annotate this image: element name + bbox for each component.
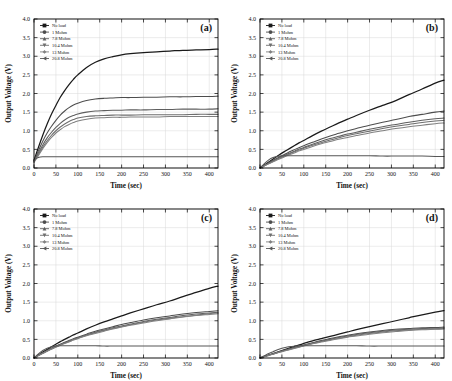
y-axis-title: Output Voltage (V): [231, 254, 239, 313]
x-tick-label: 300: [161, 361, 170, 367]
chart-panel-a: 0501001502002503003504000.00.51.01.52.02…: [0, 0, 226, 190]
legend-label-10-4-mohm: 10.4 Mohm: [278, 233, 299, 238]
x-tick-label: 0: [259, 171, 262, 177]
x-tick-label: 300: [161, 171, 170, 177]
y-tick-label: 3.0: [23, 243, 31, 249]
y-axis-title: Output Voltage (V): [5, 254, 13, 313]
legend-label-13-mohm: 13 Mohm: [278, 50, 296, 55]
x-tick-label: 350: [409, 361, 418, 367]
x-tick-label: 200: [343, 361, 352, 367]
x-tick-label: 350: [183, 361, 192, 367]
legend-label-1-mohm: 1 Mohm: [52, 220, 68, 225]
x-tick-label: 400: [205, 171, 214, 177]
plot-svg-c: 0501001502002503003504000.00.51.01.52.02…: [0, 190, 226, 380]
x-tick-label: 0: [33, 171, 36, 177]
y-tick-label: 2.0: [23, 281, 31, 287]
x-tick-label: 250: [365, 361, 374, 367]
y-tick-label: 0.0: [23, 355, 31, 361]
y-tick-label: 2.5: [23, 72, 31, 78]
y-tick-label: 3.5: [249, 225, 257, 231]
x-axis-title: Time (sec): [110, 372, 142, 380]
x-tick-label: 200: [117, 171, 126, 177]
y-tick-label: 4.0: [249, 16, 257, 22]
y-tick-label: 2.0: [249, 281, 257, 287]
x-tick-label: 300: [387, 171, 396, 177]
x-tick-label: 350: [409, 171, 418, 177]
y-tick-label: 1.5: [249, 109, 257, 115]
y-tick-label: 1.0: [249, 318, 257, 324]
y-tick-label: 3.0: [23, 53, 31, 59]
x-tick-label: 100: [73, 171, 82, 177]
y-tick-label: 1.5: [23, 299, 31, 305]
y-tick-label: 4.0: [23, 206, 31, 212]
legend-label-no-load: No load: [52, 23, 67, 28]
x-axis-title: Time (sec): [336, 182, 368, 190]
y-tick-label: 4.0: [23, 16, 31, 22]
panel-label: (c): [201, 212, 212, 224]
x-tick-label: 200: [343, 171, 352, 177]
panel-label: (a): [200, 22, 212, 34]
legend-label-1-mohm: 1 Mohm: [278, 220, 294, 225]
x-tick-label: 200: [117, 361, 126, 367]
legend-label-no-load: No load: [52, 213, 67, 218]
legend-label-20-8-mohm: 20.8 Mohm: [52, 246, 73, 251]
x-tick-label: 0: [33, 361, 36, 367]
y-tick-label: 3.0: [249, 243, 257, 249]
x-tick-label: 50: [279, 171, 285, 177]
x-tick-label: 0: [259, 361, 262, 367]
figure-container: 0501001502002503003504000.00.51.01.52.02…: [0, 0, 452, 381]
y-tick-label: 0.0: [249, 165, 257, 171]
legend-label-7-8-mohm: 7.8 Mohm: [278, 226, 297, 231]
y-tick-label: 1.0: [23, 318, 31, 324]
legend-label-10-4-mohm: 10.4 Mohm: [278, 43, 299, 48]
y-tick-label: 2.0: [23, 91, 31, 97]
y-tick-label: 2.0: [249, 91, 257, 97]
x-tick-label: 50: [279, 361, 285, 367]
y-tick-label: 3.5: [23, 35, 31, 41]
x-tick-label: 300: [387, 361, 396, 367]
x-tick-label: 150: [95, 171, 104, 177]
y-tick-label: 0.5: [23, 337, 31, 343]
legend-label-13-mohm: 13 Mohm: [278, 240, 296, 245]
x-tick-label: 50: [53, 171, 59, 177]
x-tick-label: 400: [431, 361, 440, 367]
x-tick-label: 150: [321, 171, 330, 177]
x-tick-label: 250: [139, 171, 148, 177]
y-tick-label: 1.5: [23, 109, 31, 115]
chart-panel-c: 0501001502002503003504000.00.51.01.52.02…: [0, 190, 226, 380]
chart-panel-d: 0501001502002503003504000.00.51.01.52.02…: [226, 190, 452, 380]
plot-svg-a: 0501001502002503003504000.00.51.01.52.02…: [0, 0, 226, 190]
y-axis-title: Output Voltage (V): [231, 64, 239, 123]
panel-label: (d): [426, 212, 438, 224]
legend-label-20-8-mohm: 20.8 Mohm: [278, 246, 299, 251]
legend-label-13-mohm: 13 Mohm: [52, 50, 70, 55]
y-tick-label: 1.0: [23, 128, 31, 134]
y-tick-label: 4.0: [249, 206, 257, 212]
y-tick-label: 0.5: [249, 147, 257, 153]
legend-label-1-mohm: 1 Mohm: [52, 30, 68, 35]
legend-label-10-4-mohm: 10.4 Mohm: [52, 233, 73, 238]
plot-svg-d: 0501001502002503003504000.00.51.01.52.02…: [226, 190, 452, 380]
legend-label-13-mohm: 13 Mohm: [52, 240, 70, 245]
legend-label-no-load: No load: [278, 213, 293, 218]
x-tick-label: 50: [53, 361, 59, 367]
y-tick-label: 2.5: [249, 72, 257, 78]
y-tick-label: 2.5: [23, 262, 31, 268]
x-axis-title: Time (sec): [110, 182, 142, 190]
x-axis-title: Time (sec): [336, 372, 368, 380]
y-tick-label: 3.0: [249, 53, 257, 59]
x-tick-label: 250: [139, 361, 148, 367]
x-tick-label: 350: [183, 171, 192, 177]
y-tick-label: 1.5: [249, 299, 257, 305]
legend-label-7-8-mohm: 7.8 Mohm: [52, 36, 71, 41]
legend-label-1-mohm: 1 Mohm: [278, 30, 294, 35]
x-tick-label: 100: [299, 361, 308, 367]
x-tick-label: 150: [95, 361, 104, 367]
y-tick-label: 0.5: [249, 337, 257, 343]
legend-label-no-load: No load: [278, 23, 293, 28]
x-tick-label: 250: [365, 171, 374, 177]
x-tick-label: 100: [73, 361, 82, 367]
y-tick-label: 1.0: [249, 128, 257, 134]
y-tick-label: 3.5: [23, 225, 31, 231]
y-tick-label: 0.0: [23, 165, 31, 171]
